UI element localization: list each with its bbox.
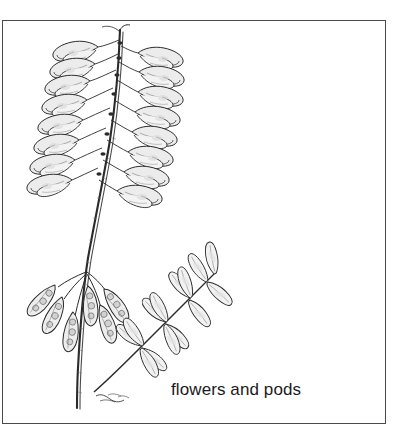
figure-caption: flowers and pods [171, 379, 301, 401]
flower [128, 146, 173, 168]
seed-pod-cluster [24, 272, 134, 353]
flower [30, 154, 75, 176]
flower-raceme [27, 25, 184, 208]
flower [34, 134, 79, 156]
seed-pod [61, 311, 81, 353]
flower [132, 126, 177, 148]
leaflet [202, 281, 236, 306]
botanical-illustration [0, 0, 408, 440]
flower [138, 86, 183, 108]
flower [38, 114, 83, 136]
artist-signature [96, 394, 129, 402]
flower [135, 106, 180, 128]
flower [42, 94, 87, 116]
leaflet [182, 299, 216, 328]
illustration-page: flowers and pods [0, 0, 408, 440]
flower [27, 174, 72, 196]
flower [139, 66, 184, 88]
